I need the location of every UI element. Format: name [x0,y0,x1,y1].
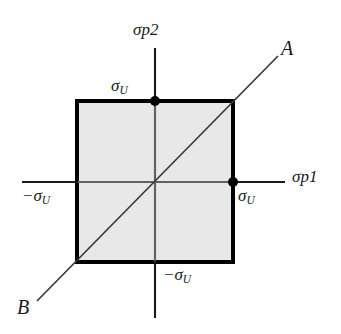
tick-subscript: U [119,84,128,96]
y-axis-tick-label-positive: σU [111,77,128,97]
tick-symbol: −σ [163,265,183,284]
y-axis-label: σp2 [133,21,158,38]
tick-subscript: U [183,273,192,285]
load-line-AB [37,56,278,301]
point-marker-top [150,96,160,106]
x-axis-tick-label-negative: −σU [22,187,50,207]
x-axis-label: σp1 [292,168,317,185]
point-marker-right [228,177,238,187]
x-axis-label-subscript: p1 [300,167,317,186]
tick-symbol: −σ [22,186,42,205]
y-axis-label-subscript: p2 [141,20,158,39]
annotation-b: B [17,297,29,317]
stress-failure-envelope-figure: σp2 σp1 σU σU −σU −σU A B [0,0,341,334]
tick-subscript: U [246,194,255,206]
x-axis-tick-label-positive: σU [238,187,255,207]
y-axis-tick-label-negative: −σU [163,266,191,286]
tick-subscript: U [42,194,51,206]
annotation-a: A [281,38,293,58]
